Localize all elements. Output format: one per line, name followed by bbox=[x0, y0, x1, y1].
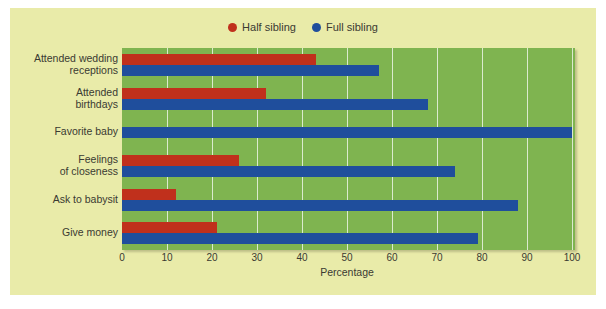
x-tick-label-60: 60 bbox=[386, 252, 397, 264]
legend-item-full-sibling[interactable]: Full sibling bbox=[312, 22, 378, 33]
bar-half-sibling-0 bbox=[122, 54, 316, 65]
x-tick-label-70: 70 bbox=[431, 252, 442, 264]
bar-full-sibling-0 bbox=[122, 65, 379, 76]
category-axis-labels: Attended weddingreceptionsAttendedbirthd… bbox=[10, 48, 118, 250]
legend-item-half-sibling[interactable]: Half sibling bbox=[228, 22, 296, 33]
bars-group bbox=[122, 48, 575, 250]
legend-label-full-sibling: Full sibling bbox=[326, 22, 378, 33]
bar-full-sibling-5 bbox=[122, 233, 478, 244]
chart-panel: Half sibling Full sibling Attended weddi… bbox=[10, 8, 596, 295]
plot-area bbox=[122, 48, 575, 250]
legend-label-half-sibling: Half sibling bbox=[242, 22, 296, 33]
bar-half-sibling-4 bbox=[122, 189, 176, 200]
category-label-3: Feelingsof closeness bbox=[10, 154, 118, 177]
chart-figure: Half sibling Full sibling Attended weddi… bbox=[0, 0, 606, 309]
x-axis-tick-labels: 0102030405060708090100 bbox=[122, 252, 575, 266]
bar-half-sibling-5 bbox=[122, 222, 217, 233]
x-tick-label-100: 100 bbox=[564, 252, 581, 264]
legend-dot-blue-icon bbox=[312, 23, 321, 32]
category-label-5: Give money bbox=[10, 227, 118, 239]
x-tick-label-0: 0 bbox=[119, 252, 125, 264]
bar-full-sibling-1 bbox=[122, 99, 428, 110]
bar-full-sibling-2 bbox=[122, 127, 572, 138]
x-tick-label-50: 50 bbox=[341, 252, 352, 264]
x-tick-label-10: 10 bbox=[161, 252, 172, 264]
category-label-1: Attendedbirthdays bbox=[10, 87, 118, 110]
bar-half-sibling-1 bbox=[122, 88, 266, 99]
legend-dot-red-icon bbox=[228, 23, 237, 32]
x-tick-label-40: 40 bbox=[296, 252, 307, 264]
bar-half-sibling-3 bbox=[122, 155, 239, 166]
category-label-2: Favorite baby bbox=[10, 126, 118, 138]
bar-full-sibling-3 bbox=[122, 166, 455, 177]
x-tick-label-80: 80 bbox=[476, 252, 487, 264]
x-tick-label-30: 30 bbox=[251, 252, 262, 264]
x-tick-label-20: 20 bbox=[206, 252, 217, 264]
x-tick-label-90: 90 bbox=[521, 252, 532, 264]
x-axis-title: Percentage bbox=[122, 266, 572, 278]
category-label-0: Attended weddingreceptions bbox=[10, 53, 118, 76]
category-label-4: Ask to babysit bbox=[10, 194, 118, 206]
chart-legend: Half sibling Full sibling bbox=[10, 22, 596, 33]
bar-full-sibling-4 bbox=[122, 200, 518, 211]
